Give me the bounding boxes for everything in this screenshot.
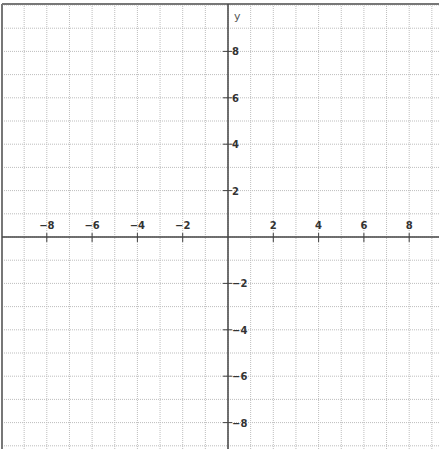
y-tick-label: 6 (232, 93, 239, 104)
plot-background (0, 0, 439, 449)
x-tick-label: −8 (39, 220, 54, 231)
x-tick-label: 4 (315, 220, 322, 231)
y-tick-label: −4 (232, 325, 247, 336)
x-tick-label: −2 (175, 220, 190, 231)
y-tick-label: −6 (232, 371, 247, 382)
coordinate-plane: −8−6−4−224688642−2−4−6−8 y (0, 0, 439, 449)
x-tick-label: 8 (406, 220, 413, 231)
y-tick-label: 4 (232, 139, 239, 150)
y-tick-label: 2 (232, 186, 239, 197)
y-axis-label: y (234, 10, 241, 23)
y-tick-label: −8 (232, 418, 247, 429)
x-tick-label: 6 (360, 220, 367, 231)
x-tick-label: −4 (130, 220, 145, 231)
y-tick-label: 8 (232, 46, 239, 57)
y-tick-label: −2 (232, 278, 247, 289)
x-tick-label: −6 (84, 220, 99, 231)
x-tick-label: 2 (270, 220, 277, 231)
